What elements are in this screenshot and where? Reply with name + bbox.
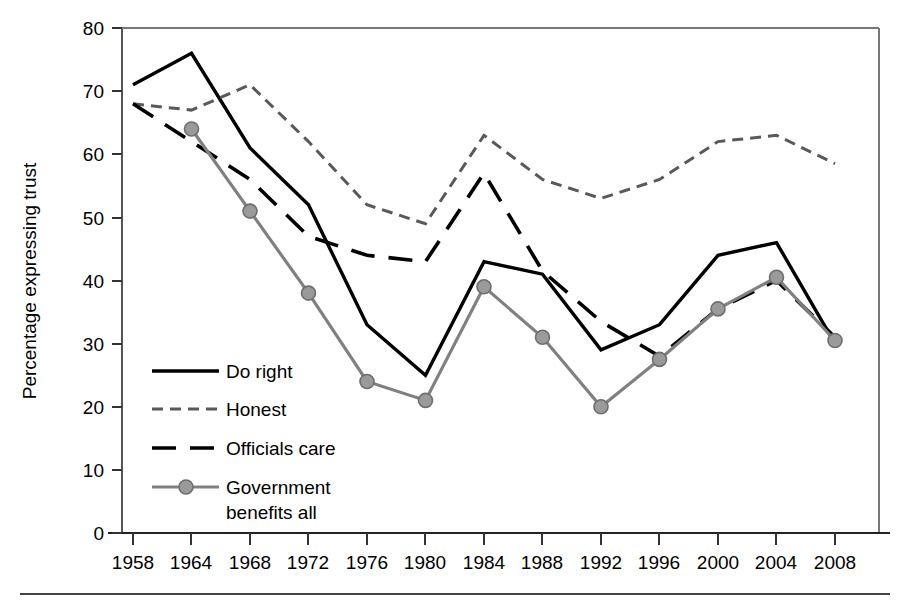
series-line-do-right <box>133 53 835 375</box>
legend-label-government-benefits-line1: Government <box>226 477 331 498</box>
x-tick-label-1988: 1988 <box>521 552 563 573</box>
y-tick-label-0: 0 <box>93 523 104 544</box>
x-tick-label-1992: 1992 <box>580 552 622 573</box>
y-tick-label-20: 20 <box>83 397 104 418</box>
x-tick-label-1976: 1976 <box>346 552 388 573</box>
legend-label-officials-care: Officials care <box>226 438 335 459</box>
x-tick-label-1980: 1980 <box>404 552 446 573</box>
x-axis-ticks <box>133 533 835 545</box>
x-tick-label-1958: 1958 <box>112 552 154 573</box>
data-point-marker <box>243 204 257 218</box>
series-line-honest <box>133 85 835 224</box>
data-point-marker <box>419 393 433 407</box>
y-tick-label-30: 30 <box>83 334 104 355</box>
x-tick-label-1972: 1972 <box>287 552 329 573</box>
x-tick-label-1964: 1964 <box>170 552 213 573</box>
x-axis-tick-labels: 1958 1964 1968 1972 1976 1980 1984 1988 … <box>112 552 856 573</box>
data-point-marker <box>594 400 608 414</box>
data-point-marker <box>477 280 491 294</box>
data-series-layer <box>133 53 842 414</box>
x-tick-label-1968: 1968 <box>229 552 271 573</box>
line-chart: 80 70 60 50 40 30 20 10 0 Percentage exp… <box>0 0 910 601</box>
data-point-marker <box>828 334 842 348</box>
legend-label-honest: Honest <box>226 399 287 420</box>
legend-label-do-right: Do right <box>226 361 293 382</box>
x-tick-label-1984: 1984 <box>463 552 506 573</box>
figure-container: 80 70 60 50 40 30 20 10 0 Percentage exp… <box>0 0 910 601</box>
y-axis-title: Percentage expressing trust <box>19 162 40 399</box>
legend: Do right Honest Officials care Governmen… <box>152 361 335 523</box>
legend-label-government-benefits-line2: benefits all <box>226 502 317 523</box>
y-axis-tick-labels: 80 70 60 50 40 30 20 10 0 <box>83 18 104 544</box>
data-point-marker <box>185 122 199 136</box>
y-tick-label-50: 50 <box>83 208 104 229</box>
data-point-marker <box>302 286 316 300</box>
x-tick-label-2000: 2000 <box>697 552 739 573</box>
data-point-marker <box>770 270 784 284</box>
x-tick-label-1996: 1996 <box>638 552 680 573</box>
data-point-marker <box>536 330 550 344</box>
legend-marker-circle-icon <box>179 480 193 494</box>
y-axis-ticks <box>112 28 122 533</box>
y-tick-label-70: 70 <box>83 81 104 102</box>
x-tick-label-2008: 2008 <box>814 552 856 573</box>
y-tick-label-80: 80 <box>83 18 104 39</box>
data-point-marker <box>711 302 725 316</box>
y-tick-label-40: 40 <box>83 271 104 292</box>
x-tick-label-2004: 2004 <box>755 552 798 573</box>
data-point-marker <box>360 375 374 389</box>
data-point-marker <box>653 352 667 366</box>
series-line-officials-care <box>133 104 835 356</box>
y-tick-label-10: 10 <box>83 460 104 481</box>
y-tick-label-60: 60 <box>83 144 104 165</box>
